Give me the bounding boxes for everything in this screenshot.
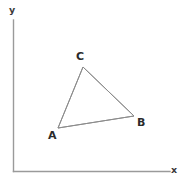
x-axis-label: x	[171, 165, 177, 175]
vertex-label-b: B	[137, 117, 145, 128]
y-axis-label: y	[9, 5, 15, 15]
diagram-canvas: y x A B C	[0, 0, 186, 187]
triangle-edge-cb	[83, 67, 134, 116]
coordinate-plane-figure	[0, 0, 186, 187]
triangle-abc-shape	[58, 67, 134, 128]
vertex-label-c: C	[76, 51, 84, 62]
vertex-label-a: A	[48, 130, 57, 141]
triangle-edge-ac	[58, 67, 83, 128]
triangle-edge-ba	[58, 116, 134, 128]
